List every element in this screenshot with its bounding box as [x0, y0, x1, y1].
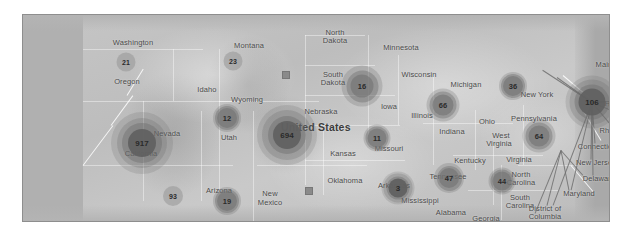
- place-label: Indiana: [439, 128, 464, 137]
- place-label: Utah: [221, 134, 237, 143]
- place-label: Delaware: [583, 175, 610, 184]
- place-label: Montana: [234, 42, 264, 51]
- place-label: Virginia: [486, 140, 512, 149]
- place-label: Ohio: [479, 118, 495, 127]
- cluster-marker[interactable]: 44: [493, 172, 512, 191]
- place-label: Maine: [596, 61, 610, 70]
- place-label: Kansas: [330, 150, 356, 159]
- cluster-marker[interactable]: 47: [439, 168, 459, 188]
- state-border: [518, 165, 578, 166]
- cluster-count: 106: [585, 98, 598, 107]
- marker-oklahoma[interactable]: [305, 187, 313, 195]
- place-label: Wyoming: [231, 96, 263, 105]
- cluster-count: 44: [498, 177, 506, 186]
- cluster-marker[interactable]: 64: [529, 126, 550, 147]
- cluster-marker[interactable]: 917: [128, 129, 156, 157]
- cluster-count: 917: [135, 139, 148, 148]
- place-label: Maryland: [563, 190, 595, 199]
- place-label: Rhode Is: [600, 127, 610, 136]
- map-panel[interactable]: WashingtonMontanaNorthDakotaMinnesotaOre…: [22, 14, 610, 222]
- cluster-count: 19: [223, 197, 231, 206]
- place-label: Texas: [320, 221, 340, 222]
- pacific-ocean-area: [23, 15, 83, 221]
- cluster-marker[interactable]: 106: [579, 89, 606, 116]
- cluster-marker[interactable]: 66: [433, 95, 454, 116]
- cluster-count: 93: [169, 193, 177, 200]
- cluster-marker[interactable]: 36: [503, 76, 523, 96]
- place-label: Washington: [113, 39, 153, 48]
- cluster-marker[interactable]: 93: [163, 186, 183, 206]
- state-border: [83, 101, 233, 102]
- cluster-marker[interactable]: 11: [368, 129, 387, 148]
- screenshot-root: WashingtonMontanaNorthDakotaMinnesotaOre…: [0, 0, 628, 237]
- state-border: [423, 123, 513, 124]
- cluster-marker[interactable]: 19: [217, 191, 237, 211]
- state-border: [323, 125, 324, 195]
- cluster-count: 23: [229, 58, 237, 65]
- cluster-count: 47: [445, 174, 453, 183]
- place-label: New York: [521, 91, 554, 100]
- cluster-count: 694: [280, 131, 293, 140]
- place-label: Idaho: [197, 86, 216, 95]
- cluster-count: 11: [373, 134, 381, 143]
- place-label: Columbia: [529, 213, 561, 222]
- place-label: Oklahoma: [328, 177, 363, 186]
- state-border: [253, 111, 254, 222]
- cluster-marker[interactable]: 16: [351, 75, 374, 98]
- place-label: Virginia: [506, 156, 532, 165]
- place-label: Minnesota: [383, 44, 419, 53]
- cluster-marker[interactable]: 21: [117, 53, 136, 72]
- place-label: Michigan: [451, 81, 482, 90]
- place-label: Alabama: [436, 209, 466, 218]
- cluster-count: 12: [223, 114, 231, 123]
- cluster-count: 36: [509, 82, 517, 91]
- state-border: [398, 55, 399, 125]
- state-border: [257, 165, 367, 166]
- cluster-count: 64: [535, 132, 543, 141]
- cluster-marker[interactable]: 694: [273, 121, 301, 149]
- marker-south-dakota[interactable]: [282, 71, 290, 79]
- cluster-count: 16: [358, 82, 366, 91]
- state-border: [305, 160, 405, 161]
- place-label: Wisconsin: [401, 71, 436, 80]
- cluster-marker[interactable]: 3: [389, 179, 408, 198]
- state-border: [433, 75, 434, 165]
- state-border: [201, 111, 202, 201]
- state-border: [173, 49, 174, 101]
- cluster-count: 3: [396, 184, 400, 193]
- place-label: Oregon: [114, 78, 140, 87]
- place-label: Kentucky: [454, 157, 486, 166]
- place-label: Iowa: [381, 103, 397, 112]
- cluster-marker[interactable]: 23: [224, 52, 243, 71]
- state-border: [83, 49, 203, 50]
- cluster-count: 66: [439, 101, 447, 110]
- place-label: Mexico: [258, 199, 282, 208]
- place-label: Georgia: [472, 215, 499, 222]
- cluster-count: 21: [122, 59, 130, 66]
- canada-area: [23, 15, 609, 31]
- cluster-marker[interactable]: 12: [217, 108, 237, 128]
- place-label: Dakota: [323, 37, 347, 46]
